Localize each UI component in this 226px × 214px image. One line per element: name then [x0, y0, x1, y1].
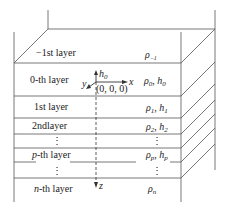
h0-arrow-icon	[94, 70, 98, 75]
layer-dots-name: ⋮	[52, 135, 62, 146]
y-arrow-icon	[86, 84, 91, 89]
layer-p-prop: ρp, hp	[145, 149, 168, 162]
layer-2-prop: ρ2, h2	[145, 121, 168, 134]
layer-p-name: p-th layer	[31, 149, 71, 160]
layer-n-prop: ρn	[147, 183, 157, 196]
side-diagonal	[181, 62, 215, 96]
side-diagonal	[181, 84, 215, 118]
layer-minus1-name: −1st layer	[36, 47, 76, 58]
layer-minus1-prop: ρ−1	[144, 49, 157, 61]
layer-dots2-name: ⋮	[52, 165, 62, 176]
layer-1-name: 1st layer	[34, 101, 69, 112]
h0-label: h0	[99, 68, 108, 81]
layer-dots2-prop: ⋮	[152, 165, 162, 176]
z-arrow-icon	[94, 182, 98, 188]
side-diagonal	[181, 114, 215, 148]
layer-0-prop: ρ0, h0	[143, 75, 166, 88]
layer-n-name: n-th layer	[34, 183, 73, 194]
side-diagonal	[181, 144, 215, 178]
layer-1-prop: ρ1, h1	[145, 102, 168, 115]
layer-0-name: 0-th layer	[30, 74, 69, 85]
layer-dots-prop: ⋮	[152, 135, 162, 146]
x-label: x	[128, 76, 134, 87]
layer-2-name: 2ndlayer	[32, 120, 68, 131]
y-label: y	[81, 78, 87, 89]
origin-label: (0, 0, 0)	[96, 83, 128, 95]
side-diagonal	[181, 100, 215, 134]
side-diagonal	[181, 29, 215, 63]
z-label: z	[98, 180, 103, 191]
side-diagonal	[181, 128, 215, 162]
layered-earth-diagram: h0 x y (0, 0, 0) z −1st layer 0-th layer…	[0, 0, 226, 214]
